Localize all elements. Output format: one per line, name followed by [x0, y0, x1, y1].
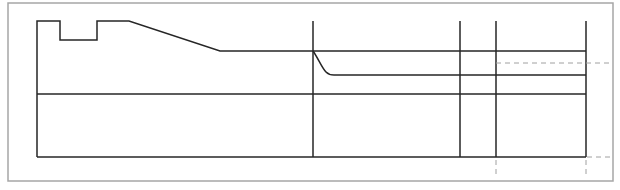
- profile-outline: [37, 21, 586, 157]
- diagram-canvas: [0, 0, 620, 190]
- diagram-frame: [8, 3, 613, 181]
- top-stepped-profile: [37, 21, 586, 157]
- dashed-guides: [496, 63, 611, 178]
- vertical-dividers: [313, 21, 586, 157]
